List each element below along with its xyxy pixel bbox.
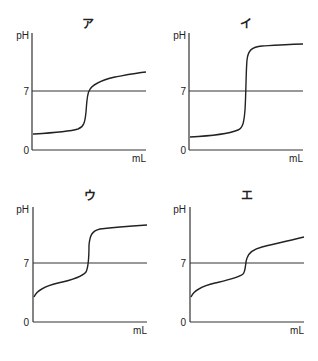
- chart-a: ア pH 7 0 mL: [16, 17, 146, 164]
- chart-a-title: ア: [82, 17, 94, 31]
- chart-a-ylabel: pH: [16, 30, 29, 41]
- chart-e-ylabel: pH: [173, 204, 186, 215]
- chart-u-title: ウ: [84, 189, 96, 203]
- chart-u-tick-0: 0: [23, 317, 29, 328]
- chart-e: エ pH 7 0 mL: [173, 189, 304, 336]
- chart-e-xlabel: mL: [290, 325, 304, 336]
- chart-u: ウ pH 7 0 mL: [16, 189, 147, 336]
- chart-i-xlabel: mL: [289, 153, 303, 164]
- chart-i-tick-0: 0: [180, 145, 186, 156]
- chart-i-tick-7: 7: [180, 86, 186, 97]
- chart-a-curve: [33, 72, 146, 134]
- chart-i-title: イ: [240, 17, 252, 31]
- chart-a-tick-7: 7: [23, 86, 29, 97]
- chart-u-curve: [34, 225, 147, 297]
- titration-curves-figure: ア pH 7 0 mL イ pH 7 0 mL ウ pH 7 0 mL エ pH…: [0, 0, 318, 361]
- chart-i-ylabel: pH: [173, 30, 186, 41]
- chart-e-tick-7: 7: [180, 258, 186, 269]
- chart-u-xlabel: mL: [133, 325, 147, 336]
- chart-a-xlabel: mL: [132, 153, 146, 164]
- chart-i: イ pH 7 0 mL: [173, 17, 303, 164]
- chart-e-tick-0: 0: [180, 317, 186, 328]
- chart-e-title: エ: [241, 189, 253, 203]
- chart-u-tick-7: 7: [23, 258, 29, 269]
- chart-a-tick-0: 0: [23, 145, 29, 156]
- chart-e-curve: [191, 237, 304, 297]
- chart-u-ylabel: pH: [16, 204, 29, 215]
